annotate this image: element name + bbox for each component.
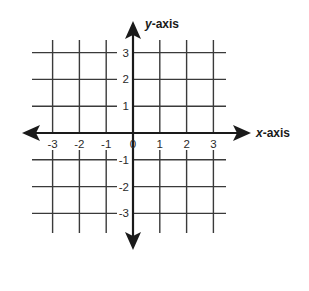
x-tick-label: -2 <box>74 138 84 150</box>
x-tick-label: -1 <box>101 138 111 150</box>
x-tick-label: -3 <box>47 138 57 150</box>
y-tick-label: -3 <box>119 207 129 219</box>
x-tick-label: 3 <box>210 138 216 150</box>
coordinate-plane: -3-2-10123-3-2-1123 y-axis x-axis <box>0 0 309 291</box>
x-tick-label: 1 <box>157 138 163 150</box>
grid-lines <box>32 40 226 233</box>
x-axis-label: x-axis <box>255 126 290 140</box>
y-axis-label: y-axis <box>144 17 179 31</box>
y-tick-label: 2 <box>123 73 129 85</box>
y-tick-label: -2 <box>119 181 129 193</box>
axes <box>22 21 251 250</box>
y-tick-label: 3 <box>123 47 129 59</box>
y-tick-label: 1 <box>123 100 129 112</box>
x-tick-label: 2 <box>183 138 189 150</box>
x-tick-label: 0 <box>130 138 136 150</box>
y-tick-label: -1 <box>119 154 129 166</box>
